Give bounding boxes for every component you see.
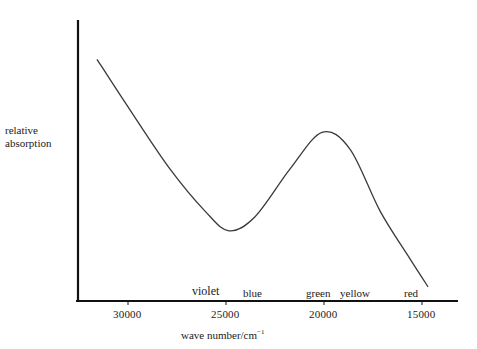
y-axis-label-line2: absorption bbox=[5, 137, 51, 150]
y-axis-label: relative absorption bbox=[5, 124, 51, 150]
x-axis-label-text: wave number/cm bbox=[181, 329, 257, 341]
x-tick-label-25000: 25000 bbox=[211, 309, 240, 320]
x-axis-label-exponent: −1 bbox=[257, 328, 264, 336]
x-tick-label-15000: 15000 bbox=[407, 309, 436, 320]
band-label-blue: blue bbox=[243, 288, 262, 299]
band-label-red: red bbox=[404, 288, 418, 299]
x-tick-label-20000: 20000 bbox=[309, 309, 338, 320]
band-label-violet: violet bbox=[192, 285, 219, 297]
band-label-green: green bbox=[306, 288, 330, 299]
x-tick-label-30000: 30000 bbox=[113, 309, 142, 320]
absorption-curve bbox=[97, 59, 428, 287]
band-label-yellow: yellow bbox=[340, 288, 370, 299]
x-axis-label: wave number/cm−1 bbox=[181, 328, 265, 341]
y-axis-label-line1: relative bbox=[5, 124, 51, 137]
